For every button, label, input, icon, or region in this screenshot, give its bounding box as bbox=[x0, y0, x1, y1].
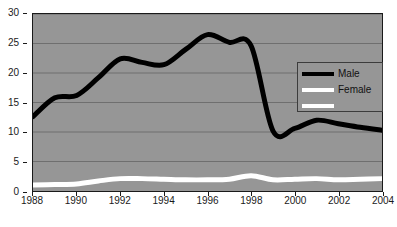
y-tick-label: 15 bbox=[8, 98, 19, 108]
x-tick-label: 1996 bbox=[196, 196, 218, 206]
legend-swatch bbox=[302, 104, 334, 108]
y-tick-mark bbox=[23, 162, 27, 163]
legend-entry bbox=[302, 99, 338, 113]
y-tick-mark bbox=[23, 103, 27, 104]
x-tick-label: 1990 bbox=[65, 196, 87, 206]
y-tick-label: 0 bbox=[13, 187, 19, 197]
y-tick-mark bbox=[23, 73, 27, 74]
y-tick-mark bbox=[23, 132, 27, 133]
legend-entry: Male bbox=[302, 67, 360, 81]
y-tick-label: 5 bbox=[13, 157, 19, 167]
x-tick-label: 1994 bbox=[153, 196, 175, 206]
x-tick-label: 1988 bbox=[21, 196, 43, 206]
y-tick-label: 30 bbox=[8, 8, 19, 18]
y-tick-label: 25 bbox=[8, 38, 19, 48]
x-tick-label: 2004 bbox=[372, 196, 394, 206]
y-tick-mark bbox=[23, 192, 27, 193]
legend-label: Female bbox=[338, 85, 371, 95]
chart-legend: MaleFemale bbox=[297, 62, 383, 112]
x-tick-label: 2000 bbox=[284, 196, 306, 206]
x-axis: 198819901992199419961998200020022004 bbox=[32, 196, 383, 216]
x-tick-label: 1998 bbox=[240, 196, 262, 206]
legend-label: Male bbox=[338, 69, 360, 79]
y-tick-label: 20 bbox=[8, 68, 19, 78]
y-tick-label: 10 bbox=[8, 127, 19, 137]
y-tick-mark bbox=[23, 43, 27, 44]
y-tick-mark bbox=[23, 13, 27, 14]
series-line-female bbox=[33, 176, 382, 185]
legend-entry: Female bbox=[302, 83, 371, 97]
legend-swatch bbox=[302, 88, 334, 92]
x-tick-label: 1992 bbox=[109, 196, 131, 206]
legend-swatch bbox=[302, 72, 334, 76]
y-axis: 051015202530 bbox=[0, 13, 27, 192]
x-tick-label: 2002 bbox=[328, 196, 350, 206]
line-chart: 051015202530 198819901992199419961998200… bbox=[0, 0, 397, 227]
